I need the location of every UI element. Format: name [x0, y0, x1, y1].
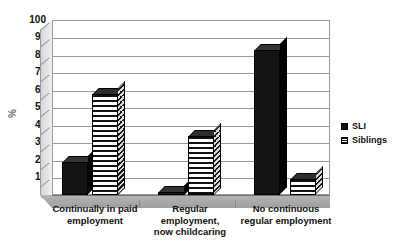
legend-swatch-siblings-icon — [341, 137, 348, 144]
bar-chart: % 100 90 80 70 60 50 40 30 20 10 0 — [0, 0, 405, 252]
bar-side-face — [280, 37, 287, 194]
legend-label-siblings: Siblings — [352, 136, 387, 145]
bar-side-face — [316, 166, 323, 194]
category-label-line: now childcaring — [130, 226, 250, 238]
legend-item-siblings: Siblings — [341, 136, 387, 145]
legend-item-sli: SLI — [341, 122, 387, 131]
bar-siblings-no-continuous-regular-employment — [290, 179, 316, 195]
bar-side-face — [214, 123, 221, 195]
category-label-line: regular employment — [226, 215, 346, 227]
bar-side-face — [118, 81, 125, 195]
chart-legend: SLI Siblings — [341, 122, 387, 150]
legend-swatch-sli-icon — [341, 123, 348, 130]
category-label-line: No continuous — [226, 203, 346, 215]
bar-sli-regular-employment-now-childcaring — [158, 192, 184, 196]
bar-siblings-continually-in-paid-employment — [92, 94, 118, 196]
bar-sli-continually-in-paid-employment — [62, 162, 88, 195]
category-label-no-continuous-regular-employment: No continuous regular employment — [226, 203, 346, 226]
bar-sli-no-continuous-regular-employment — [254, 50, 280, 195]
legend-label-sli: SLI — [352, 122, 366, 131]
bar-siblings-regular-employment-now-childcaring — [188, 136, 214, 196]
